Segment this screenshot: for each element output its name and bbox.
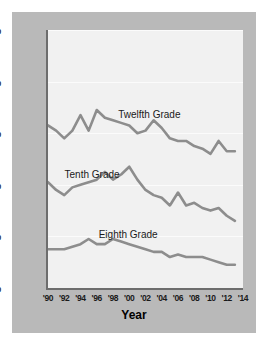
- y-axis-tick-label: 30%: [0, 128, 1, 139]
- series-lines: [48, 30, 243, 288]
- x-axis-tick-label: '14: [238, 293, 249, 303]
- x-axis-line: [46, 288, 243, 290]
- y-axis-tick-label: 10%: [0, 231, 1, 242]
- x-axis-tick-label: '10: [205, 293, 216, 303]
- x-axis-tick-label: '94: [75, 293, 86, 303]
- series-label: Tenth Grade: [65, 169, 120, 180]
- x-axis-tick-label: '04: [156, 293, 167, 303]
- y-axis-tick-label: 40%: [0, 76, 1, 87]
- series-line: [48, 239, 235, 265]
- y-axis-tick-label: 50%: [0, 25, 1, 36]
- x-axis-tick-label: '90: [43, 293, 54, 303]
- y-axis-tick-label: 0%: [0, 283, 1, 294]
- y-axis-tick-label: 20%: [0, 179, 1, 190]
- x-axis-tick-label: '92: [59, 293, 70, 303]
- x-axis-tick-label: '12: [221, 293, 232, 303]
- x-axis-tick-label: '96: [91, 293, 102, 303]
- x-axis-tick-label: '00: [124, 293, 135, 303]
- x-axis-tick-label: '06: [173, 293, 184, 303]
- x-axis-title: Year: [12, 308, 256, 322]
- plot-area: 0%10%20%30%40%50% Twelfth GradeTenth Gra…: [48, 30, 243, 288]
- chart-card: 0%10%20%30%40%50% Twelfth GradeTenth Gra…: [12, 12, 256, 333]
- x-axis-tick-label: '08: [189, 293, 200, 303]
- x-axis-tick-label: '02: [140, 293, 151, 303]
- series-label: Twelfth Grade: [118, 109, 180, 120]
- x-axis-tick-label: '98: [108, 293, 119, 303]
- series-label: Eighth Grade: [99, 229, 158, 240]
- y-axis-line: [46, 30, 48, 289]
